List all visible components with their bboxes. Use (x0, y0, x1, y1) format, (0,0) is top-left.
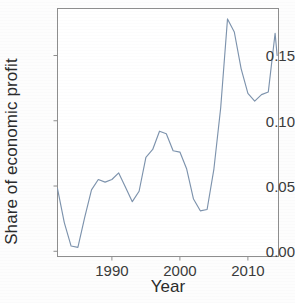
chart-figure: 0.000.050.100.15 199020002010 Share of e… (0, 0, 295, 303)
x-axis-title: Year (57, 277, 279, 297)
y-tick-label: 0.05 (249, 178, 295, 195)
plot-frame (58, 9, 279, 257)
y-tick-label: 0.15 (249, 47, 295, 64)
y-axis-title: Share of economic profit (0, 0, 24, 303)
x-axis-ticks (112, 257, 248, 261)
y-tick-label: 0.00 (249, 243, 295, 260)
y-axis-ticks (54, 55, 58, 251)
y-tick-label: 0.10 (249, 112, 295, 129)
